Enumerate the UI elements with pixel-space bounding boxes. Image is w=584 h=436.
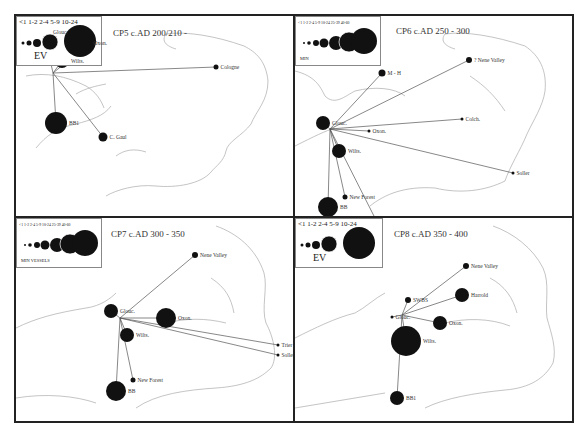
site-marker <box>433 316 447 330</box>
site-label: New Forest <box>350 194 376 200</box>
site-label: SWBS <box>413 297 428 303</box>
site-marker <box>463 263 469 269</box>
site-marker <box>277 344 280 347</box>
site-label: Glouc. <box>120 308 135 314</box>
site-marker <box>120 328 134 342</box>
site-marker <box>461 118 464 121</box>
site-marker <box>277 354 280 357</box>
legend-unit-label: EV <box>34 50 47 61</box>
site-marker <box>192 252 198 258</box>
site-marker <box>332 144 346 158</box>
panel-cp8: <1 1-2 2-4 5-9 10-24 EV CP8 c.AD 350 - 4… <box>295 218 573 423</box>
site-marker <box>405 297 411 303</box>
legend-circles <box>17 17 101 65</box>
site-label: Wilts. <box>136 332 149 338</box>
site-label: BB1 <box>406 395 416 401</box>
site-label: BB <box>128 388 135 394</box>
legend-circles <box>296 219 382 267</box>
site-marker <box>318 197 338 216</box>
site-marker <box>343 195 348 200</box>
site-label: Glouc. <box>332 120 347 126</box>
site-marker <box>99 133 108 142</box>
site-marker <box>391 326 421 356</box>
site-label: New Forest <box>138 377 164 383</box>
panel-title: CP8 c.AD 350 - 400 <box>394 229 468 239</box>
site-label: Glouc. <box>53 29 68 35</box>
panel-title: CP7 c.AD 300 - 350 <box>111 229 185 239</box>
site-label: Soller <box>517 170 530 176</box>
site-marker <box>131 378 136 383</box>
site-label: Cologne <box>221 64 240 70</box>
site-label: Glouc. <box>396 314 411 320</box>
panel-cp7: <1 1-2 2-4 5-9 10-24 25-39 40-60 MIN VES… <box>16 218 293 423</box>
legend-cp5: <1 1-2 2-4 5-9 10-24 EV <box>16 16 102 66</box>
site-marker <box>466 57 472 63</box>
site-label: Nene Valley <box>471 263 498 269</box>
legend-cp7: <1 1-2 2-4 5-9 10-24 25-39 40-60 MIN VES… <box>16 218 102 268</box>
site-marker <box>214 65 219 70</box>
site-label: Nene Valley <box>200 252 227 258</box>
legend-unit-label: MIN VESSELS <box>21 258 50 263</box>
site-label: Oxon. <box>373 128 387 134</box>
site-label: BB1 <box>69 120 79 126</box>
site-label: Harrold <box>471 292 488 298</box>
site-label: M - H <box>388 70 401 76</box>
site-marker <box>512 172 515 175</box>
panel-title: CP5 c.AD 200/210 - <box>113 28 187 38</box>
legend-cp6: <1 1-2 2-4 5-9 10-24 25-39 40-60 MIN <box>295 16 381 66</box>
site-label: BB <box>340 204 347 210</box>
legend-unit-label: MIN <box>300 56 309 61</box>
panel-cp5: <1 1-2 2-4 5-9 10-24 EV CP5 c.AD 200/210… <box>16 16 293 216</box>
legend-unit-label: EV <box>313 252 326 263</box>
site-label: Oxon. <box>178 315 192 321</box>
site-label: Wilts. <box>348 148 361 154</box>
site-label: Oxon. <box>94 40 108 46</box>
legend-cp8: <1 1-2 2-4 5-9 10-24 EV <box>295 218 383 268</box>
site-marker <box>379 70 386 77</box>
site-label: Trier <box>282 342 293 348</box>
site-marker <box>455 288 469 302</box>
site-marker <box>368 130 371 133</box>
panel-title: CP6 c.AD 250 - 300 <box>396 26 470 36</box>
site-label: Oxon. <box>449 320 463 326</box>
site-marker <box>156 308 176 328</box>
site-label: ? Nene Valley <box>474 57 505 63</box>
site-marker <box>316 116 330 130</box>
site-marker <box>391 316 394 319</box>
site-label: Wilts. <box>423 338 436 344</box>
panel-cp6: <1 1-2 2-4 5-9 10-24 25-39 40-60 MIN CP6… <box>295 16 573 216</box>
site-marker <box>106 381 126 401</box>
site-label: Soller <box>282 352 294 358</box>
site-marker <box>45 112 67 134</box>
site-label: C. Gaul <box>110 134 127 140</box>
site-marker <box>390 391 404 405</box>
site-marker <box>104 304 118 318</box>
site-label: Colch. <box>466 116 481 122</box>
site-label: Wilts. <box>71 58 84 64</box>
